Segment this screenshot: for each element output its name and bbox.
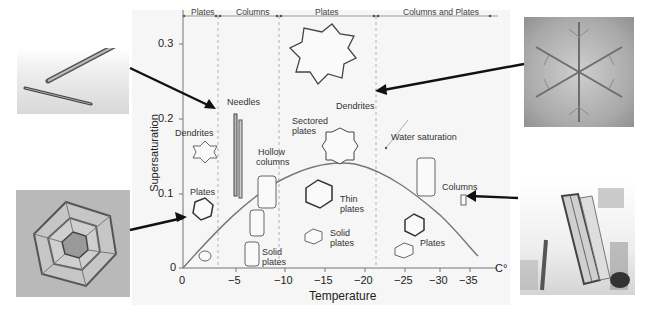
label-solid-plates-left-2: plates: [262, 257, 286, 267]
y-tick-0: 0: [170, 261, 176, 273]
regime-label-plates-2: Plates: [315, 7, 339, 17]
regime-label-columns-and-plates: Columns and Plates: [403, 7, 479, 17]
y-axis-label: Supersaturation: [148, 103, 160, 203]
x-tick-0: 0: [179, 274, 185, 286]
label-thin-plates-2: plates: [340, 204, 364, 214]
label-thin-plates-1: Thin: [340, 194, 358, 204]
regime-label-plates-1: Plates: [191, 7, 215, 17]
label-sectored-plates-2: plates: [292, 126, 316, 136]
x-tick-minus30: −30: [429, 274, 448, 286]
x-axis-unit: C°: [495, 262, 507, 274]
label-dendrites-left: Dendrites: [175, 128, 214, 138]
x-tick-minus15: −15: [314, 274, 333, 286]
label-dendrites-top: Dendrites: [336, 101, 375, 111]
x-tick-minus25: −25: [394, 274, 413, 286]
regime-label-columns: Columns: [236, 7, 270, 17]
label-solid-plates-mid-2: plates: [330, 238, 354, 248]
label-columns-right: Columns: [442, 182, 478, 192]
y-tick-0.1: 0.1: [158, 187, 173, 199]
label-plates-left: Plates: [190, 187, 215, 197]
morphology-chart: [0, 0, 651, 315]
label-hollow-columns-2: columns: [256, 157, 290, 167]
label-solid-plates-left-1: Solid: [262, 247, 282, 257]
label-sectored-plates-1: Sectored: [292, 116, 328, 126]
dendrite-top-sketch: [290, 24, 356, 84]
label-hollow-columns-1: Hollow: [258, 147, 285, 157]
x-tick-minus35: −35: [459, 274, 478, 286]
y-tick-0.3: 0.3: [158, 37, 173, 49]
x-tick-minus10: −10: [274, 274, 293, 286]
x-tick-minus20: −20: [354, 274, 373, 286]
x-tick-minus5: −5: [228, 274, 241, 286]
label-needles: Needles: [227, 97, 260, 107]
label-water-saturation: Water saturation: [391, 132, 457, 142]
label-solid-plates-mid-1: Solid: [330, 228, 350, 238]
y-tick-0.2: 0.2: [158, 112, 173, 124]
x-axis-label: Temperature: [309, 289, 376, 303]
label-plates-right: Plates: [420, 238, 445, 248]
